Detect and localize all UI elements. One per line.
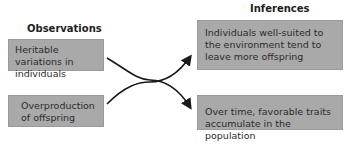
crossing-arrows xyxy=(0,0,354,146)
